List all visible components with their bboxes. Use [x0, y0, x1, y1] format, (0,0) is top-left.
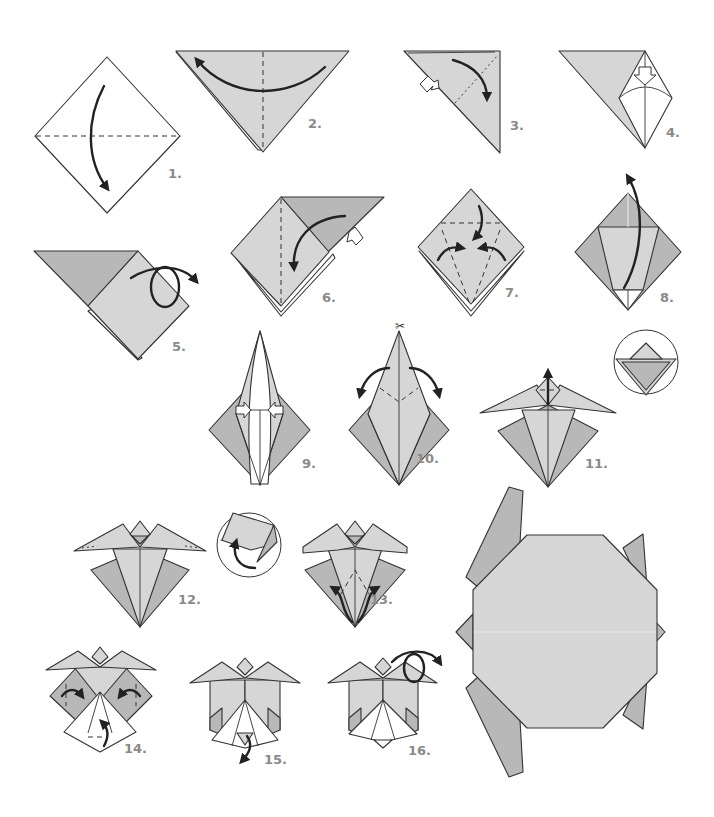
step-11: 11. — [480, 372, 616, 487]
right-wing-flap — [355, 524, 407, 553]
step-label: 14. — [124, 741, 147, 756]
step-7: 7. — [418, 189, 524, 316]
step-label: 4. — [666, 125, 680, 140]
left-wing-flap — [303, 524, 355, 553]
step-label: 12. — [178, 592, 201, 607]
step-label: 2. — [308, 116, 322, 131]
step-3: 3. — [404, 51, 524, 153]
step-5: 5. — [34, 251, 196, 360]
right-wing-flap — [140, 524, 206, 551]
step-9: 9. — [209, 331, 316, 485]
left-wing-flap — [74, 524, 140, 551]
head — [456, 614, 473, 650]
step-1: 1. — [35, 57, 182, 213]
step-label: 6. — [322, 290, 336, 305]
step-label: 11. — [585, 456, 608, 471]
step-label: 8. — [660, 290, 674, 305]
step-13: 13. — [303, 521, 407, 627]
step-4: 4. — [559, 51, 680, 148]
step-16: 16. — [328, 652, 440, 758]
left-wing-flap — [46, 651, 100, 670]
finished-turtle — [456, 487, 665, 777]
step-12: 12. — [74, 521, 206, 627]
step-8: 8. — [575, 177, 681, 310]
step-label: 7. — [505, 285, 519, 300]
step-label: 3. — [510, 118, 524, 133]
step-label: 1. — [168, 166, 182, 181]
origami-turtle-diagram: 1. 2. 3. 4. 5. — [0, 0, 714, 817]
step-10: ✂ 10. — [349, 319, 449, 485]
step-label: 16. — [408, 743, 431, 758]
square-paper — [35, 57, 180, 213]
step-label: 10. — [416, 451, 439, 466]
step-2: 2. — [176, 51, 349, 152]
step-6: 6. — [231, 197, 384, 316]
step-label: 15. — [264, 752, 287, 767]
step-14: 14. — [46, 647, 156, 756]
step-label: 5. — [172, 339, 186, 354]
right-wing-flap — [100, 651, 156, 670]
scissors-icon: ✂ — [395, 319, 405, 333]
triangle-paper — [404, 51, 500, 153]
step-label: 9. — [302, 456, 316, 471]
step-15: 15. — [190, 658, 300, 767]
step-11-detail — [614, 330, 678, 395]
step-12-detail — [217, 513, 281, 577]
step-label: 13. — [370, 592, 393, 607]
